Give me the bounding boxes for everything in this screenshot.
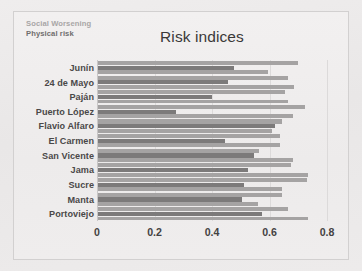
- y-axis-category-label: Manta: [14, 195, 94, 205]
- bar-social-worsening-secondary: [97, 202, 258, 206]
- x-axis-tick-labels: 00.20.40.60.8: [97, 226, 327, 244]
- bar-social-worsening-secondary: [97, 173, 308, 177]
- bar-social-worsening: [97, 149, 259, 153]
- y-axis-category-label: Sucre: [14, 180, 94, 190]
- bar-physical-risk: [97, 124, 275, 128]
- bar-social-worsening-secondary: [97, 187, 282, 191]
- bar-physical-risk: [97, 139, 225, 143]
- y-axis-category-label: San Vicente: [14, 151, 94, 161]
- bar-social-worsening-secondary: [97, 70, 268, 74]
- x-axis-tick-label: 0.8: [320, 226, 335, 238]
- bar-group: [97, 192, 327, 207]
- bar-social-worsening: [97, 76, 288, 80]
- bar-physical-risk: [97, 197, 242, 201]
- y-axis-line: [97, 60, 98, 221]
- chart-title: Risk indices: [14, 28, 348, 46]
- x-axis-tick-label: 0.2: [147, 226, 162, 238]
- y-axis-category-label: Flavio Alfaro: [14, 121, 94, 131]
- y-axis-category-label: 24 de Mayo: [14, 78, 94, 88]
- chart-page: Social Worsening Physical risk Risk indi…: [0, 0, 362, 271]
- bar-group: [97, 148, 327, 163]
- bar-social-worsening-secondary: [97, 217, 308, 221]
- bar-physical-risk: [97, 110, 176, 114]
- bar-social-worsening: [97, 207, 288, 211]
- bar-social-worsening-secondary: [97, 85, 294, 89]
- chart-frame: Social Worsening Physical risk Risk indi…: [13, 11, 349, 260]
- bar-group: [97, 133, 327, 148]
- bar-physical-risk: [97, 80, 228, 84]
- bar-physical-risk: [97, 95, 212, 99]
- bar-group: [97, 75, 327, 90]
- bar-group: [97, 60, 327, 75]
- plot-wrapper: Junín24 de MayoPajánPuerto LópezFlavio A…: [14, 58, 350, 261]
- bar-group: [97, 177, 327, 192]
- bar-group: [97, 119, 327, 134]
- bar-physical-risk: [97, 212, 262, 216]
- x-axis-tick-label: 0.6: [262, 226, 277, 238]
- bar-group: [97, 206, 327, 221]
- bar-social-worsening: [97, 90, 285, 94]
- bar-social-worsening: [97, 105, 305, 109]
- bar-group: [97, 89, 327, 104]
- y-axis-category-label: Paján: [14, 92, 94, 102]
- gridline: [327, 60, 328, 221]
- bar-social-worsening: [97, 193, 282, 197]
- y-axis-category-label: El Carmen: [14, 136, 94, 146]
- bar-social-worsening: [97, 61, 298, 65]
- bar-social-worsening-secondary: [97, 129, 272, 133]
- plot-area: [97, 60, 327, 221]
- bar-group: [97, 162, 327, 177]
- bar-social-worsening: [97, 178, 307, 182]
- bar-group: [97, 104, 327, 119]
- bar-social-worsening-secondary: [97, 114, 293, 118]
- bar-social-worsening: [97, 119, 282, 123]
- bar-physical-risk: [97, 66, 234, 70]
- bar-social-worsening-secondary: [97, 143, 280, 147]
- bar-social-worsening-secondary: [97, 158, 293, 162]
- y-axis-category-label: Portoviejo: [14, 209, 94, 219]
- y-axis-category-label: Puerto López: [14, 107, 94, 117]
- bar-physical-risk: [97, 168, 248, 172]
- y-axis-category-label: Jama: [14, 165, 94, 175]
- x-axis-tick-label: 0.4: [205, 226, 220, 238]
- bar-social-worsening: [97, 134, 280, 138]
- bar-rows: [97, 60, 327, 221]
- bar-physical-risk: [97, 183, 244, 187]
- bar-physical-risk: [97, 153, 254, 157]
- x-axis-tick-label: 0: [94, 226, 100, 238]
- bar-social-worsening-secondary: [97, 100, 288, 104]
- bar-social-worsening: [97, 163, 291, 167]
- y-axis-category-labels: Junín24 de MayoPajánPuerto LópezFlavio A…: [14, 60, 94, 221]
- y-axis-category-label: Junín: [14, 63, 94, 73]
